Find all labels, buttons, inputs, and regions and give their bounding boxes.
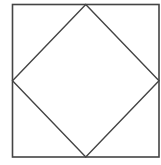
outer-square: [13, 5, 160, 158]
diagram-canvas: [0, 0, 161, 165]
inner-diamond: [13, 5, 160, 158]
